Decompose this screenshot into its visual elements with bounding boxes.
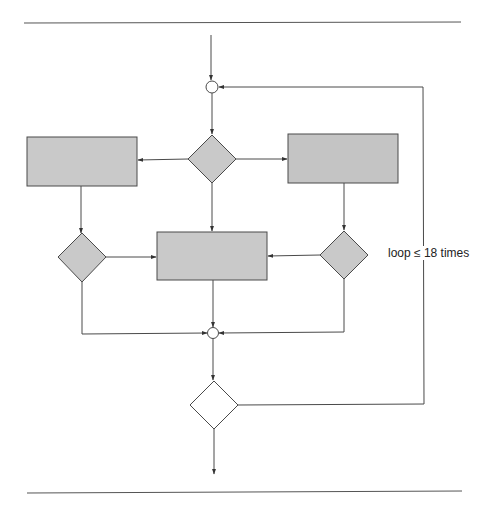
top-rule (24, 22, 461, 23)
merge-top-node (206, 81, 218, 93)
loop-label: loop ≤ 18 times (386, 246, 471, 260)
edge-right-diamond-to-center (268, 255, 320, 256)
bottom-rule (27, 491, 462, 493)
process-right-node (288, 134, 398, 183)
process-center-node (157, 232, 267, 280)
decision-left-node (58, 233, 106, 282)
decision-right-node (320, 231, 368, 279)
edge-right-diamond-to-merge (219, 279, 344, 333)
merge-bottom-node (208, 328, 219, 339)
decision-top-node (188, 135, 236, 183)
edge-left-diamond-to-merge (82, 282, 207, 334)
process-left-node (27, 137, 137, 186)
edge-decision-to-left (138, 159, 188, 160)
decision-bottom-node (190, 381, 238, 429)
